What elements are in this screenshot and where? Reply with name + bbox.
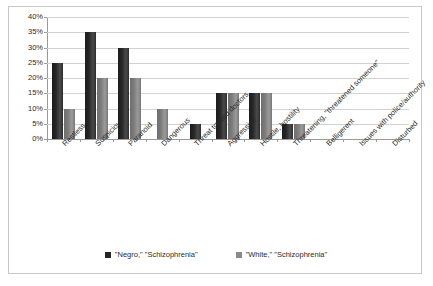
x-axis-tick-mark: [146, 139, 147, 142]
x-axis-tick-mark: [277, 139, 278, 142]
y-axis-tick-mark: [44, 93, 47, 94]
y-axis-tick-mark: [44, 124, 47, 125]
x-axis-tick-mark: [409, 139, 410, 142]
y-axis-tick-mark: [44, 17, 47, 18]
x-axis-labels: RestlessSuspiciousParanoidDangerousThrea…: [47, 143, 409, 243]
x-axis-tick-mark: [179, 139, 180, 142]
x-axis-tick-mark: [113, 139, 114, 142]
y-axis-tick-label: 0%: [32, 135, 43, 143]
x-axis-tick-mark: [212, 139, 213, 142]
x-axis-tick-mark: [80, 139, 81, 142]
x-axis-tick-mark: [310, 139, 311, 142]
legend-swatch-icon: [105, 252, 111, 258]
y-axis-tick-mark: [44, 48, 47, 49]
y-axis-tick-label: 15%: [28, 90, 43, 98]
y-axis-tick-mark: [44, 109, 47, 110]
x-axis-tick-mark: [47, 139, 48, 142]
y-axis-tick-label: 10%: [28, 105, 43, 113]
y-axis-tick-label: 25%: [28, 59, 43, 67]
chart-legend: "Negro," "Schizophrenia""White," "Schizo…: [9, 250, 423, 259]
y-axis-tick-label: 5%: [32, 120, 43, 128]
y-axis-tick-label: 40%: [28, 13, 43, 21]
bar: [85, 32, 96, 139]
legend-label: "Negro," "Schizophrenia": [115, 250, 198, 259]
legend-swatch-icon: [236, 252, 242, 258]
y-axis-tick-label: 30%: [28, 44, 43, 52]
y-axis-tick-label: 20%: [28, 74, 43, 82]
bar-group: [47, 17, 80, 139]
x-axis-tick-mark: [244, 139, 245, 142]
bar-group: [80, 17, 113, 139]
bar: [52, 63, 63, 139]
x-axis-tick-mark: [376, 139, 377, 142]
y-axis-tick-mark: [44, 32, 47, 33]
legend-item[interactable]: "Negro," "Schizophrenia": [105, 250, 198, 259]
y-axis: 0%5%10%15%20%25%30%35%40%: [17, 17, 47, 139]
legend-label: "White," "Schizophrenia": [246, 250, 328, 259]
x-axis-tick-mark: [343, 139, 344, 142]
y-axis-tick-mark: [44, 63, 47, 64]
y-axis-tick-label: 35%: [28, 29, 43, 37]
chart-frame: 0%5%10%15%20%25%30%35%40% RestlessSuspic…: [8, 6, 422, 274]
bar-group: [146, 17, 179, 139]
y-axis-tick-mark: [44, 78, 47, 79]
legend-item[interactable]: "White," "Schizophrenia": [236, 250, 328, 259]
